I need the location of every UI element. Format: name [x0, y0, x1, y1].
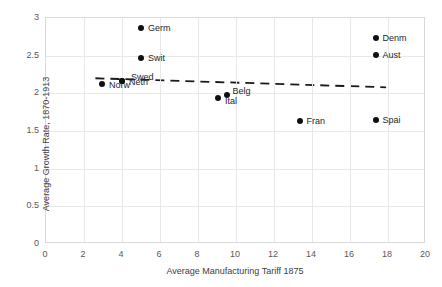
y-tick-label: 1.5	[9, 125, 39, 135]
y-tick-label: 0.5	[9, 200, 39, 210]
data-point[interactable]	[215, 95, 221, 101]
y-tick-label: 3	[9, 12, 39, 22]
x-gridline	[274, 18, 275, 242]
x-gridline	[84, 18, 85, 242]
y-tick-label: 0	[9, 238, 39, 248]
x-gridline	[160, 18, 161, 242]
x-gridline	[236, 18, 237, 242]
x-gridline	[198, 18, 199, 242]
x-tick-label: 6	[144, 249, 174, 259]
x-tick-label: 10	[220, 249, 250, 259]
y-tick-label: 1	[9, 163, 39, 173]
y-tick-label: 2.5	[9, 50, 39, 60]
data-point-label: Swed	[131, 72, 154, 82]
data-point[interactable]	[373, 35, 379, 41]
y-gridline	[46, 169, 424, 170]
data-point[interactable]	[373, 117, 379, 123]
data-point-label: Aust	[383, 50, 401, 60]
data-point-label: Fran	[307, 116, 326, 126]
x-tick-label: 16	[334, 249, 364, 259]
x-tick-label: 20	[410, 249, 440, 259]
y-gridline	[46, 206, 424, 207]
x-tick-label: 12	[258, 249, 288, 259]
data-point[interactable]	[119, 78, 125, 84]
scatter-chart: Average Growth Rate, 1870-1913 Average M…	[0, 0, 442, 287]
x-tick-label: 18	[372, 249, 402, 259]
y-gridline	[46, 131, 424, 132]
x-tick-label: 0	[30, 249, 60, 259]
data-point[interactable]	[297, 118, 303, 124]
x-gridline	[350, 18, 351, 242]
y-gridline	[46, 56, 424, 57]
x-tick-label: 2	[68, 249, 98, 259]
data-point[interactable]	[99, 81, 105, 87]
data-point[interactable]	[373, 52, 379, 58]
x-gridline	[312, 18, 313, 242]
data-point-label: Belg	[232, 86, 250, 96]
data-point-label: Spai	[383, 115, 401, 125]
x-tick-label: 8	[182, 249, 212, 259]
x-gridline	[122, 18, 123, 242]
data-point-label: Denm	[383, 33, 407, 43]
x-tick-label: 4	[106, 249, 136, 259]
y-tick-label: 2	[9, 87, 39, 97]
y-axis-title: Average Growth Rate, 1870-1913	[41, 54, 51, 234]
data-point-label: Germ	[148, 23, 171, 33]
x-axis-title: Average Manufacturing Tariff 1875	[45, 266, 425, 276]
x-tick-label: 14	[296, 249, 326, 259]
data-point-label: Swit	[148, 53, 165, 63]
plot-area	[45, 17, 425, 243]
